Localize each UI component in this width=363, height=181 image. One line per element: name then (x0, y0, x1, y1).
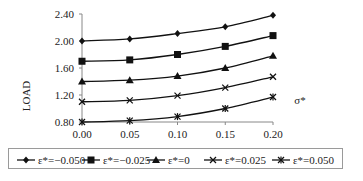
y-tick-label: 1.60 (55, 62, 75, 74)
square-legend-icon (88, 157, 95, 164)
square-marker-icon (79, 58, 86, 65)
triangle-marker-icon (269, 52, 277, 59)
y-axis-label: LOAD (20, 81, 32, 112)
series-1 (79, 12, 276, 45)
square-marker-icon (222, 43, 229, 50)
chart-legend: ε*=−0.050ε*=−0.025ε*=0ε*=0.025ε*=0.050 (8, 148, 343, 169)
y-tick-label: 0.80 (55, 116, 75, 128)
legend-item: ε*=0 (147, 154, 190, 166)
legend-item: ε*=0.025 (204, 154, 267, 166)
series-5 (79, 94, 276, 126)
series-line (82, 15, 273, 41)
legend-label: ε*=0.025 (225, 154, 267, 166)
diamond-marker-icon (79, 38, 85, 45)
y-tick-label: 1.20 (55, 89, 75, 101)
square-marker-icon (126, 56, 133, 63)
x-axis-label: σ* (294, 94, 305, 106)
diamond-marker-icon (127, 35, 133, 42)
legend-label: ε*=−0.050 (38, 154, 86, 166)
diamond-legend-icon (23, 157, 29, 164)
legend-label: ε*=0.050 (293, 154, 335, 166)
square-marker-icon (270, 32, 277, 39)
diamond-marker-icon (175, 30, 181, 37)
diamond-marker-icon (270, 12, 276, 19)
x-tick-label: 0.15 (216, 128, 236, 140)
y-tick-label: 2.40 (55, 8, 75, 20)
x-tick-label: 0.20 (263, 128, 283, 140)
legend-item: ε*=−0.025 (82, 154, 151, 166)
x-tick-label: 0.00 (72, 128, 92, 140)
square-marker-icon (174, 51, 181, 58)
legend-label: ε*=0 (168, 154, 190, 166)
chart-axes: 0.801.201.602.002.400.000.050.100.150.20 (55, 8, 283, 140)
chart-series (78, 12, 277, 126)
y-tick-label: 2.00 (55, 35, 75, 47)
legend-label: ε*=−0.025 (103, 154, 151, 166)
legend-item: ε*=0.050 (272, 154, 335, 166)
x-tick-label: 0.10 (168, 128, 188, 140)
diamond-marker-icon (222, 23, 228, 30)
x-tick-label: 0.05 (120, 128, 140, 140)
legend-item: ε*=−0.050 (17, 154, 86, 166)
legend-items: ε*=−0.050ε*=−0.025ε*=0ε*=0.025ε*=0.050 (9, 149, 344, 170)
